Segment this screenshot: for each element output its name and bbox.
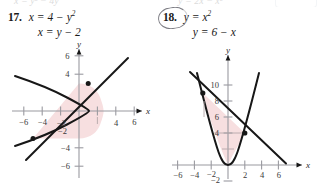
ghost-text-left: x = y² − 4y <box>14 0 59 6</box>
graph-17-y-axis-label: y <box>76 39 81 49</box>
problem-18-equation-1-exponent: 2 <box>208 10 212 18</box>
ghost-text-right: y = 2x − x² <box>178 0 223 6</box>
graph-17-intersection-point-2 <box>31 136 36 141</box>
graph-17-xtick-label--6: −6 <box>19 117 28 127</box>
graph-17-ytick-label-4: 4 <box>65 69 70 79</box>
graph-18-y-axis-arrow <box>226 55 231 61</box>
graph-18-y-axis-label: y <box>225 45 230 55</box>
graph-18-xtick-label--4: −4 <box>190 170 200 180</box>
graph-18-xtick-label-2: 2 <box>243 170 247 180</box>
problem-18-equation-1: y = x2 <box>184 10 236 25</box>
problem-17-header: 17. x = 4 − y2 x = y − 2 <box>8 10 81 40</box>
problem-18-equations: y = x2 y = 6 − x <box>184 10 236 40</box>
problem-17: 17. x = 4 − y2 x = y − 2 <box>8 10 81 40</box>
graph-17-xtick-label-4: 4 <box>114 118 119 128</box>
problem-18-equation-2: y = 6 − x <box>184 25 236 40</box>
graph-18-x-axis-label: x <box>305 160 310 170</box>
graph-18-canvas: −6 −4 −2 2 4 6 10 8 6 4 −2 x y <box>168 45 318 183</box>
problem-17-equation-1-text: x = 4 − y <box>29 11 72 23</box>
graph-17-ytick-label--2: −2 <box>58 126 67 136</box>
graph-18: −6 −4 −2 2 4 6 10 8 6 4 −2 x y <box>168 45 318 183</box>
graph-17-xtick-label--4: −4 <box>38 117 48 127</box>
graph-17: −6 −4 −2 4 6 6 4 −2 −4 −6 x y <box>6 42 156 184</box>
graph-17-ytick-label--4: −4 <box>61 143 71 153</box>
graph-17-x-axis-label: x <box>145 106 150 116</box>
graph-17-curve-line <box>26 58 128 160</box>
graph-17-canvas: −6 −4 −2 4 6 6 4 −2 −4 −6 x y <box>6 42 156 184</box>
graph-18-intersection-point-2 <box>242 130 247 135</box>
graph-18-xtick-label--6: −6 <box>173 170 182 180</box>
ghost-box <box>275 0 317 7</box>
problem-17-number: 17. <box>8 10 22 24</box>
graph-18-ytick-label--2: −2 <box>211 175 220 185</box>
graph-18-xtick-label-4: 4 <box>260 170 265 180</box>
graph-17-y-axis-arrow <box>77 49 82 55</box>
worksheet-page: x = y² − 4y y = 2x − x² 17. x = 4 − y2 x… <box>0 0 321 184</box>
problem-17-equation-1: x = 4 − y2 <box>29 10 81 25</box>
graph-17-x-axis-arrow <box>137 109 143 114</box>
problem-17-equation-2: x = y − 2 <box>29 25 81 40</box>
problem-17-equations: x = 4 − y2 x = y − 2 <box>29 10 81 40</box>
graph-18-x-axis-arrow <box>297 163 303 168</box>
graph-17-ytick-label-6: 6 <box>65 51 69 61</box>
graph-18-ytick-label-10: 10 <box>211 80 220 90</box>
problem-18: 18. y = x2 y = 6 − x <box>163 10 236 40</box>
graph-18-xtick-label-6: 6 <box>277 170 281 180</box>
graph-18-ytick-label-6: 6 <box>215 112 219 122</box>
graph-18-intersection-point-1 <box>200 90 205 95</box>
graph-17-xtick-label-6: 6 <box>132 117 136 127</box>
problem-18-number: 18. <box>163 10 177 24</box>
problem-17-equation-1-exponent: 2 <box>72 10 76 18</box>
graph-17-ytick-label--6: −6 <box>61 161 70 171</box>
problem-18-equation-1-text: y = x <box>184 11 208 23</box>
graph-18-ytick-label-8: 8 <box>215 96 219 106</box>
graph-17-intersection-point-1 <box>86 81 91 86</box>
cut-off-previous-line: x = y² − 4y y = 2x − x² <box>0 0 321 7</box>
problem-18-header: 18. y = x2 y = 6 − x <box>163 10 236 40</box>
